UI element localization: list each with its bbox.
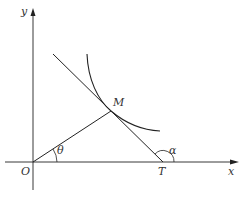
angle-theta-label: θ — [57, 145, 64, 156]
origin-label: O — [21, 166, 30, 177]
y-axis-arrow-icon — [31, 8, 36, 16]
radius-segment-om — [33, 111, 111, 162]
x-axis-label: x — [228, 166, 234, 177]
x-axis-arrow-icon — [230, 160, 239, 165]
point-t-label: T — [158, 166, 165, 177]
y-axis-label: y — [21, 6, 27, 17]
diagram-canvas: y x O M T θ α — [0, 0, 247, 204]
tangent-line — [53, 54, 163, 162]
angle-alpha-label: α — [169, 145, 176, 156]
point-m-label: M — [113, 97, 124, 108]
